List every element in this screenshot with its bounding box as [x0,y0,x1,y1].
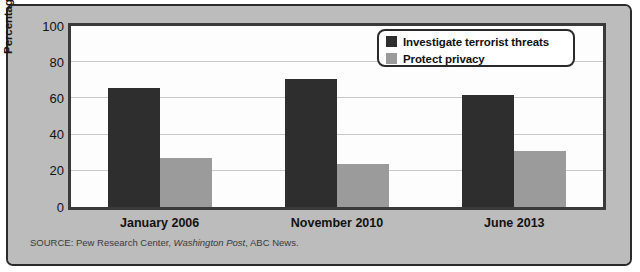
x-tick-label: January 2006 [71,216,248,230]
y-tick-label: 80 [32,56,64,69]
y-axis-title: Percentage of respondents [2,0,14,56]
bar [160,158,212,207]
bar [108,88,160,207]
source-prefix: SOURCE: Pew Research Center, [30,237,174,248]
source-note: SOURCE: Pew Research Center, Washington … [30,237,299,248]
bar [462,95,514,207]
bar [285,79,337,208]
source-suffix: , ABC News. [245,237,298,248]
bar [514,151,566,207]
source-publication: Washington Post [174,237,246,248]
y-tick-label: 100 [32,20,64,33]
x-tick-label: November 2010 [248,216,425,230]
y-tick-label: 60 [32,92,64,105]
legend-swatch-icon [386,53,397,64]
chart-legend: Investigate terrorist threats Protect pr… [377,29,575,67]
bar [337,164,389,207]
legend-item-label: Protect privacy [403,53,485,65]
y-tick-label: 0 [32,201,64,214]
chart-figure-background: Percentage of respondents 020406080100 J… [8,6,630,264]
legend-item-label: Investigate terrorist threats [403,36,549,48]
x-axis-tick-labels: January 2006November 2010June 2013 [68,216,606,236]
legend-item: Investigate terrorist threats [386,34,567,49]
chart-figure: Percentage of respondents 020406080100 J… [6,4,632,266]
y-tick-label: 20 [32,164,64,177]
y-axis-tick-labels: 020406080100 [30,23,64,210]
legend-item: Protect privacy [386,51,567,66]
x-tick-label: June 2013 [426,216,603,230]
legend-swatch-icon [386,36,397,47]
y-tick-label: 40 [32,128,64,141]
